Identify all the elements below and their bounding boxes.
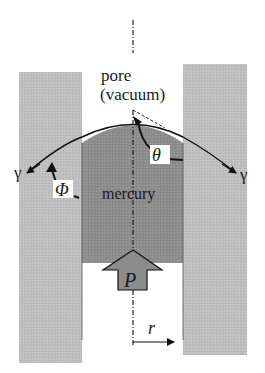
pressure-label: P [123, 269, 136, 291]
gamma-left-label: γ [13, 163, 22, 182]
mercury-intrusion-diagram: pore (vacuum) θ Φ γ γ mercury P r [0, 0, 265, 373]
theta-label: θ [152, 145, 161, 165]
gamma-right-label: γ [239, 165, 248, 184]
vacuum-label: (vacuum) [100, 85, 165, 104]
phi-label: Φ [55, 180, 69, 200]
left-pore-wall [19, 72, 82, 363]
radius-label: r [148, 318, 156, 338]
pore-label: pore [101, 66, 131, 85]
mercury-label: mercury [102, 185, 155, 203]
right-pore-wall [183, 64, 247, 355]
